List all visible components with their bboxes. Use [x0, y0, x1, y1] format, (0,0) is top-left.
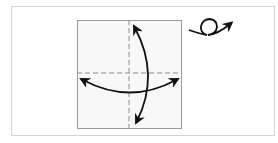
- origami-diagram: [0, 0, 278, 143]
- turn-over-icon: [189, 19, 230, 35]
